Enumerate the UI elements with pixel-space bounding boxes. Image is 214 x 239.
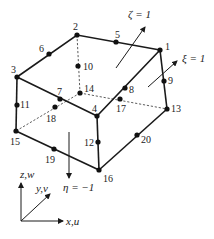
node-label: 1 xyxy=(165,41,170,52)
node-dot-icon xyxy=(46,51,51,56)
node-15: 15 xyxy=(10,128,20,147)
xi-arrow: ξ = 1 xyxy=(148,52,205,87)
node-4: 4 xyxy=(92,103,100,119)
zeta-arrow: ζ = 1 xyxy=(116,8,151,68)
node-3: 3 xyxy=(11,64,20,80)
node-label: 20 xyxy=(141,134,151,145)
node-label: 12 xyxy=(84,137,94,148)
node-dot-icon xyxy=(164,106,169,111)
node-label: 16 xyxy=(103,173,113,184)
node-dot-icon xyxy=(157,47,162,52)
xi-label: ξ = 1 xyxy=(182,52,205,65)
z-axis-label: z,w xyxy=(19,168,35,180)
nodes: 1234567891011121314151617181920 xyxy=(10,21,181,184)
node-label: 3 xyxy=(11,64,16,75)
node-18: 18 xyxy=(46,104,58,124)
node-6: 6 xyxy=(39,43,52,57)
node-label: 10 xyxy=(83,61,93,72)
edge-16-13 xyxy=(99,109,167,170)
node-dot-icon xyxy=(94,113,99,118)
node-dot-icon xyxy=(122,85,127,90)
node-label: 14 xyxy=(84,83,94,94)
node-7: 7 xyxy=(57,86,63,102)
node-label: 11 xyxy=(20,99,30,110)
node-label: 7 xyxy=(57,86,62,97)
node-label: 13 xyxy=(171,103,181,114)
node-dot-icon xyxy=(161,78,166,83)
node-16: 16 xyxy=(96,167,113,184)
node-label: 9 xyxy=(168,75,173,86)
node-label: 19 xyxy=(45,154,55,165)
node-10: 10 xyxy=(75,61,93,72)
node-label: 5 xyxy=(115,29,120,40)
node-label: 2 xyxy=(73,21,78,32)
node-dot-icon xyxy=(96,167,101,172)
node-dot-icon xyxy=(77,90,82,95)
node-label: 18 xyxy=(46,113,56,124)
node-dot-icon xyxy=(14,74,19,79)
node-2: 2 xyxy=(73,21,80,38)
y-axis-label: y,v xyxy=(35,182,48,194)
zeta-arrow-icon xyxy=(116,27,145,68)
node-label: 17 xyxy=(116,103,126,114)
node-dot-icon xyxy=(13,128,18,133)
node-label: 8 xyxy=(129,84,134,95)
node-dot-icon xyxy=(95,139,100,144)
y-axis-arrow-icon xyxy=(21,194,50,221)
node-dot-icon xyxy=(75,63,80,68)
hexahedral-element-diagram: ζ = 1 ξ = 1 η = −1 123456789101112131415… xyxy=(0,0,214,239)
node-dot-icon xyxy=(52,104,57,109)
node-label: 15 xyxy=(10,136,20,147)
node-dot-icon xyxy=(134,132,139,137)
node-dot-icon xyxy=(51,146,56,151)
node-dot-icon xyxy=(117,96,122,101)
x-axis-label: x,u xyxy=(65,215,80,227)
node-8: 8 xyxy=(122,84,134,95)
node-19: 19 xyxy=(45,146,57,165)
eta-label: η = −1 xyxy=(63,181,94,193)
node-dot-icon xyxy=(14,102,19,107)
global-axes: z,w y,v x,u xyxy=(19,168,80,227)
node-label: 4 xyxy=(92,103,97,114)
node-1: 1 xyxy=(157,41,170,53)
node-17: 17 xyxy=(116,96,126,114)
node-dot-icon xyxy=(57,96,62,101)
node-dot-icon xyxy=(74,32,79,37)
node-label: 6 xyxy=(39,43,44,54)
zeta-label: ζ = 1 xyxy=(128,8,151,21)
node-20: 20 xyxy=(134,132,151,145)
node-dot-icon xyxy=(113,39,118,44)
